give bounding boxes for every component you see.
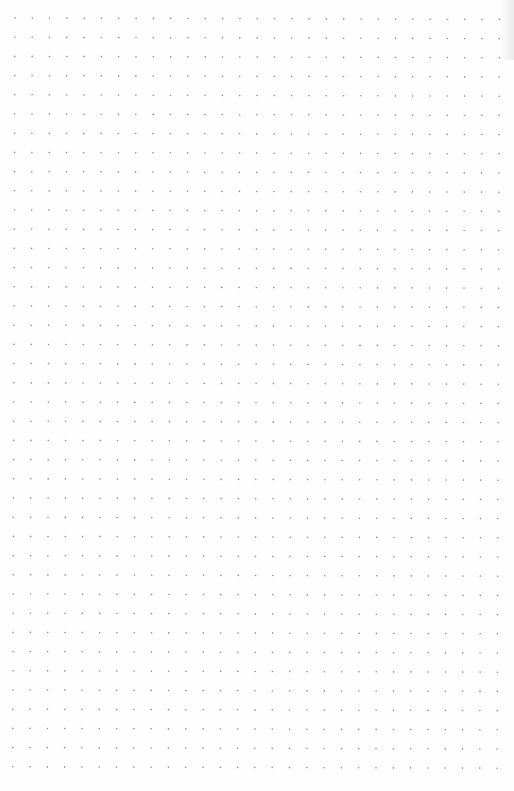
grid-dot — [152, 94, 154, 96]
grid-dot — [325, 114, 327, 116]
grid-dot — [117, 459, 119, 461]
grid-dot — [447, 38, 449, 40]
grid-dot — [393, 690, 395, 692]
grid-dot — [220, 709, 222, 711]
grid-dot — [169, 363, 171, 365]
grid-dot — [205, 18, 207, 20]
grid-dot — [220, 459, 222, 461]
grid-dot — [133, 709, 135, 711]
grid-dot — [479, 767, 481, 769]
grid-dot — [47, 593, 49, 595]
grid-dot — [151, 517, 153, 519]
grid-dot — [83, 209, 85, 211]
grid-dot — [239, 191, 241, 193]
grid-dot — [134, 344, 136, 346]
grid-dot — [307, 421, 309, 423]
grid-dot — [463, 441, 465, 443]
grid-dot — [377, 153, 379, 155]
grid-dot — [117, 363, 119, 365]
grid-dot — [29, 708, 31, 710]
grid-dot — [99, 728, 101, 730]
grid-dot — [360, 18, 362, 20]
grid-dot — [254, 728, 256, 730]
grid-dot — [170, 18, 172, 20]
grid-dot — [307, 364, 309, 366]
grid-dot — [375, 767, 377, 769]
grid-dot — [273, 325, 275, 327]
grid-dot — [152, 133, 154, 135]
grid-dot — [82, 478, 84, 480]
grid-dot — [238, 517, 240, 519]
grid-dot — [480, 479, 482, 481]
grid-dot — [359, 479, 361, 481]
grid-dot — [204, 306, 206, 308]
grid-dot — [377, 114, 379, 116]
grid-dot — [480, 575, 482, 577]
grid-dot — [30, 497, 32, 499]
grid-dot — [323, 748, 325, 750]
grid-dot — [203, 555, 205, 557]
grid-dot — [151, 459, 153, 461]
grid-dot — [203, 536, 205, 538]
grid-dot — [12, 612, 14, 614]
grid-dot — [343, 37, 345, 39]
grid-dot — [376, 652, 378, 654]
grid-dot — [325, 325, 327, 327]
grid-dot — [134, 421, 136, 423]
grid-dot — [82, 536, 84, 538]
grid-dot — [481, 95, 483, 97]
grid-dot — [47, 766, 49, 768]
grid-dot — [307, 594, 309, 596]
grid-dot — [307, 441, 309, 443]
grid-dot — [464, 76, 466, 78]
grid-dot — [428, 460, 430, 462]
grid-dot — [359, 441, 361, 443]
grid-dot — [186, 459, 188, 461]
grid-dot — [394, 134, 396, 136]
grid-dot — [273, 402, 275, 404]
grid-dot — [12, 747, 14, 749]
grid-dot — [186, 363, 188, 365]
grid-dot — [204, 152, 206, 154]
grid-dot — [204, 191, 206, 193]
grid-dot — [394, 191, 396, 193]
grid-dot — [359, 556, 361, 558]
grid-dot — [238, 268, 240, 270]
grid-dot — [82, 401, 84, 403]
grid-dot — [66, 17, 68, 19]
grid-dot — [272, 517, 274, 519]
grid-dot — [323, 767, 325, 769]
grid-dot — [446, 211, 448, 213]
grid-dot — [238, 344, 240, 346]
grid-dot — [170, 133, 172, 135]
grid-dot — [325, 191, 327, 193]
grid-dot — [237, 594, 239, 596]
grid-dot — [134, 498, 136, 500]
grid-dot — [463, 460, 465, 462]
grid-dot — [13, 305, 15, 307]
grid-dot — [323, 709, 325, 711]
grid-dot — [360, 153, 362, 155]
grid-dot — [445, 691, 447, 693]
grid-dot — [428, 441, 430, 443]
grid-dot — [256, 95, 258, 97]
grid-dot — [291, 191, 293, 193]
grid-dot — [134, 363, 136, 365]
grid-dot — [445, 671, 447, 673]
grid-dot — [47, 497, 49, 499]
grid-dot — [169, 344, 171, 346]
grid-dot — [82, 593, 84, 595]
grid-dot — [497, 441, 499, 443]
grid-dot — [116, 613, 118, 615]
grid-dot — [481, 172, 483, 174]
grid-dot — [100, 325, 102, 327]
grid-dot — [429, 57, 431, 59]
grid-dot — [463, 422, 465, 424]
grid-dot — [254, 748, 256, 750]
grid-dot — [100, 402, 102, 404]
grid-dot — [238, 306, 240, 308]
grid-dot — [359, 268, 361, 270]
grid-dot — [134, 594, 136, 596]
grid-dot — [342, 441, 344, 443]
grid-dot — [428, 518, 430, 520]
